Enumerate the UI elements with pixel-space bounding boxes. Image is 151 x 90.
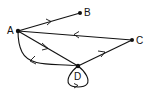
arrow-icon [74,32,79,39]
edge-a-to-b [18,13,80,31]
node-label-b: B [84,7,91,18]
edge-d-to-c [78,40,132,66]
node-label-d: D [74,71,81,82]
directed-graph: A B C D [0,0,151,90]
node-b [78,11,82,15]
node-c [130,38,134,42]
node-label-a: A [7,25,14,36]
node-label-c: C [136,35,143,46]
node-a [16,29,20,33]
arrow-icon [30,56,36,64]
node-d [76,64,80,68]
